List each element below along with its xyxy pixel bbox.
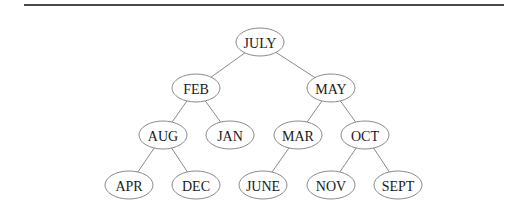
- tree-node-mar: MAR: [274, 121, 322, 149]
- node-label: AUG: [148, 129, 178, 144]
- node-label: APR: [115, 179, 143, 194]
- tree-node-apr: APR: [105, 171, 153, 199]
- tree-node-aug: AUG: [139, 121, 187, 149]
- tree-node-jan: JAN: [206, 121, 254, 149]
- tree-nodes: JULYFEBMAYAUGJANMAROCTAPRDECJUNENOVSEPT: [105, 28, 422, 199]
- node-label: MAY: [315, 82, 346, 97]
- tree-node-nov: NOV: [307, 171, 355, 199]
- node-label: FEB: [183, 82, 209, 97]
- node-label: JUNE: [246, 179, 280, 194]
- tree-node-oct: OCT: [341, 121, 389, 149]
- node-label: JULY: [244, 36, 277, 51]
- tree-node-sept: SEPT: [374, 171, 422, 199]
- node-label: MAR: [282, 129, 315, 144]
- node-label: SEPT: [382, 179, 415, 194]
- binary-tree-diagram: JULYFEBMAYAUGJANMAROCTAPRDECJUNENOVSEPT: [0, 0, 516, 218]
- node-label: JAN: [217, 129, 243, 144]
- tree-node-feb: FEB: [172, 74, 220, 102]
- tree-node-dec: DEC: [172, 171, 220, 199]
- tree-node-june: JUNE: [239, 171, 287, 199]
- node-label: NOV: [316, 179, 346, 194]
- tree-node-may: MAY: [307, 74, 355, 102]
- node-label: DEC: [182, 179, 210, 194]
- node-label: OCT: [351, 129, 379, 144]
- tree-node-july: JULY: [236, 28, 284, 56]
- tree-edges: [129, 42, 398, 185]
